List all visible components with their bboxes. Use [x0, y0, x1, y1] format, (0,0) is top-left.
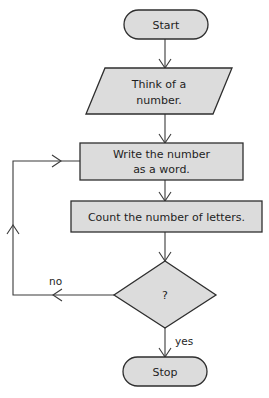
- node-start-label: Start: [153, 19, 181, 32]
- edge-input-to-write: [159, 114, 171, 143]
- node-stop: Stop: [123, 357, 207, 386]
- node-decision: ?: [114, 261, 216, 328]
- edge-count-to-decision: [159, 232, 171, 261]
- node-count: Count the number of letters.: [71, 201, 262, 232]
- flowchart: no yes Start Think of a number. Write th…: [0, 0, 269, 398]
- node-write: Write the number as a word.: [80, 143, 243, 180]
- node-stop-label: Stop: [152, 366, 177, 379]
- node-write-label-line1: Write the number: [113, 148, 210, 161]
- edge-decision-to-stop: [159, 328, 171, 357]
- node-count-label: Count the number of letters.: [88, 211, 245, 224]
- edge-label-no: no: [49, 275, 62, 287]
- node-input-label-line2: number.: [136, 94, 181, 107]
- edge-write-to-count: [159, 180, 171, 201]
- node-input: Think of a number.: [86, 68, 232, 114]
- edge-label-yes: yes: [175, 335, 193, 347]
- node-decision-label: ?: [162, 289, 168, 302]
- node-input-label-line1: Think of a: [131, 78, 186, 91]
- edge-start-to-input: [159, 39, 171, 68]
- node-write-label-line2: as a word.: [133, 163, 190, 176]
- node-start: Start: [124, 10, 208, 39]
